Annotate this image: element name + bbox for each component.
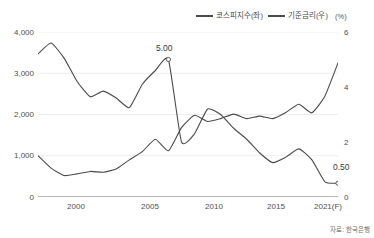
series-line-base-rate bbox=[38, 43, 338, 183]
ytick-right-6: 6 bbox=[344, 29, 372, 37]
source-note: 자료: 한국은행 bbox=[330, 224, 370, 234]
ytick-left-0: 0 bbox=[0, 194, 34, 202]
legend-label-kospi: 코스피지수(좌) bbox=[216, 12, 263, 20]
chart-container: 코스피지수(좌) 기준금리(우) (%) 4,000 3,000 2,000 1… bbox=[0, 0, 374, 238]
legend-unit-percent: (%) bbox=[335, 12, 347, 21]
ytick-left-1000: 1,000 bbox=[0, 152, 34, 160]
legend-item-base-rate: 기준금리(우) bbox=[268, 12, 328, 20]
legend-item-kospi: 코스피지수(좌) bbox=[196, 12, 263, 20]
data-point-markers bbox=[166, 57, 338, 185]
chart-legend: 코스피지수(좌) 기준금리(우) (%) bbox=[196, 9, 374, 23]
annotation-rate-final: 0.50 bbox=[333, 163, 350, 172]
legend-swatch-base-rate bbox=[268, 15, 285, 17]
legend-swatch-kospi bbox=[196, 15, 213, 17]
xtick-2000: 2000 bbox=[52, 203, 100, 211]
xtick-2021f: 2021(F) bbox=[300, 203, 356, 211]
chart-svg bbox=[38, 32, 338, 197]
legend-label-base-rate: 기준금리(우) bbox=[288, 12, 328, 20]
xtick-2010: 2010 bbox=[190, 203, 238, 211]
ytick-right-0: 0 bbox=[344, 194, 372, 202]
xtick-2015: 2015 bbox=[252, 203, 300, 211]
ytick-left-4000: 4,000 bbox=[0, 29, 34, 37]
xtick-2005: 2005 bbox=[126, 203, 174, 211]
ytick-left-3000: 3,000 bbox=[0, 70, 34, 78]
data-point-marker-0-50 bbox=[336, 181, 338, 185]
data-point-marker-5-00 bbox=[166, 57, 170, 61]
ytick-right-4: 4 bbox=[344, 84, 372, 92]
series-lines bbox=[38, 43, 338, 183]
plot-area bbox=[38, 32, 338, 197]
annotation-rate-peak: 5.00 bbox=[156, 44, 173, 53]
series-line-kospi bbox=[38, 63, 338, 176]
ytick-left-2000: 2,000 bbox=[0, 111, 34, 119]
ytick-right-2: 2 bbox=[344, 139, 372, 147]
